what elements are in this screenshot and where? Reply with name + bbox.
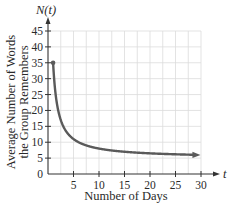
x-axis-variable: t bbox=[223, 167, 227, 181]
y-axis-title-line2: the Group Remembers bbox=[17, 45, 31, 158]
y-tick-label: 25 bbox=[32, 89, 44, 101]
y-tick-label: 30 bbox=[32, 73, 44, 85]
x-axis-arrow-icon bbox=[213, 172, 220, 177]
y-tick-label: 20 bbox=[32, 104, 44, 116]
chart: 51015202530051015202530354045 N(t) t Num… bbox=[0, 0, 234, 206]
y-tick-label: 35 bbox=[32, 57, 44, 69]
y-tick-label: 40 bbox=[32, 41, 44, 53]
curve-arrowhead-icon bbox=[192, 152, 200, 158]
y-tick-label: 10 bbox=[32, 136, 44, 148]
y-tick-label: 15 bbox=[32, 120, 44, 132]
x-tick-label: 5 bbox=[71, 179, 77, 191]
data-curve bbox=[53, 63, 194, 155]
y-axis-arrow-icon bbox=[46, 17, 51, 24]
x-axis-title: Number of Days bbox=[84, 189, 167, 203]
y-tick-label: 45 bbox=[32, 25, 44, 37]
y-axis-variable: N(t) bbox=[35, 3, 56, 17]
y-tick-label: 5 bbox=[37, 152, 43, 164]
start-point bbox=[51, 60, 56, 65]
x-tick-label: 25 bbox=[170, 179, 182, 191]
x-tick-label: 30 bbox=[195, 179, 207, 191]
y-tick-label: 0 bbox=[37, 168, 43, 180]
y-axis-title-line1: Average Number of Words bbox=[4, 35, 18, 169]
